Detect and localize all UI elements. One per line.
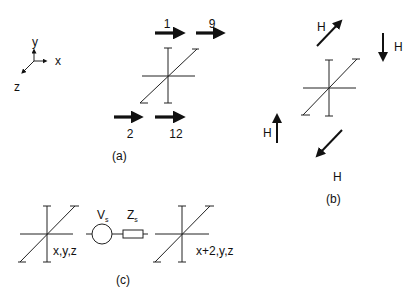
arrow-label-12: 12 [169, 127, 183, 141]
left-node-label: x,y,z [53, 244, 77, 258]
field-label-h: H [394, 40, 403, 54]
voltage-source-icon [92, 224, 112, 244]
y-axis-label: y [32, 35, 38, 49]
node-cross-icon [301, 59, 360, 116]
panel-a: 1 9 2 12 (a) [112, 17, 220, 163]
z-axis-label: z [14, 80, 20, 94]
z-axis-arrow-icon [23, 61, 34, 72]
right-node-label: x+2,y,z [196, 244, 233, 258]
field-arrow-down-left-icon [319, 130, 342, 154]
arrow-label-2: 2 [127, 127, 134, 141]
panel-a-caption: (a) [112, 149, 127, 163]
x-axis-label: x [55, 54, 61, 68]
panel-c-caption: (c) [116, 273, 130, 287]
panel-c: x,y,z Vs Zs x+2,y,z (c) [18, 206, 233, 287]
source-label: Vs [97, 208, 109, 223]
field-label-h: H [317, 20, 326, 34]
node-cross-icon [140, 48, 199, 103]
panel-b: H H H H (b) [263, 20, 403, 206]
field-label-h: H [263, 126, 272, 140]
coordinate-axes: y x z [14, 35, 61, 94]
impedance-label: Zs [127, 208, 138, 223]
arrow-label-1: 1 [164, 17, 171, 31]
diagram-canvas: y x z 1 9 2 12 (a) [0, 0, 415, 299]
impedance-resistor-icon [123, 230, 143, 238]
field-label-h: H [333, 170, 342, 184]
panel-b-caption: (b) [326, 192, 341, 206]
arrow-label-9: 9 [209, 17, 216, 31]
